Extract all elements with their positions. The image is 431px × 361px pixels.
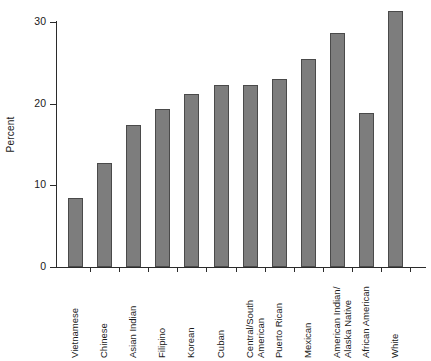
- bar: [68, 198, 83, 267]
- x-axis-label: Central/SouthAmerican: [244, 272, 262, 361]
- x-axis-label-line: White: [389, 334, 400, 358]
- bar: [272, 79, 287, 267]
- x-axis-label-line: Vietnamese: [69, 308, 80, 358]
- x-axis-label-line: African American: [360, 286, 371, 358]
- bar: [359, 113, 374, 267]
- bar: [330, 33, 345, 267]
- x-axis-label-line: Alaska Native: [342, 300, 353, 358]
- x-axis-label-line: Filipino: [156, 328, 167, 358]
- x-axis-label-line: Central/South: [244, 300, 255, 358]
- x-axis-label: Filipino: [156, 272, 174, 361]
- x-axis-label-line: Chinese: [98, 323, 109, 358]
- y-axis-tick-label: 10: [34, 178, 46, 191]
- x-axis-label: White: [389, 272, 407, 361]
- y-axis-tick: 30: [50, 22, 56, 23]
- x-axis-label-line: Cuban: [215, 330, 226, 358]
- x-axis-label: American Indian/Alaska Native: [331, 272, 349, 361]
- y-axis-tick: 0: [50, 267, 56, 268]
- x-axis-label: African American: [360, 272, 378, 361]
- x-axis-line: [56, 267, 426, 268]
- bar: [126, 125, 141, 267]
- x-axis-label: Mexican: [302, 272, 320, 361]
- x-axis-label: Cuban: [215, 272, 233, 361]
- y-axis-title-label: Percent: [6, 116, 17, 152]
- bar-chart: Percent 0102030 VietnameseChineseAsian I…: [0, 0, 431, 361]
- bar: [301, 59, 316, 267]
- y-axis-tick-label: 30: [34, 15, 46, 28]
- bar: [214, 85, 229, 267]
- x-axis-label-line: Korean: [185, 327, 196, 358]
- x-axis-label: Puerto Rican: [273, 272, 291, 361]
- plot-area: 0102030: [56, 6, 426, 268]
- bar: [184, 94, 199, 267]
- bar: [97, 163, 112, 267]
- bar: [155, 109, 170, 267]
- y-axis-tick: 20: [50, 104, 56, 105]
- x-axis-label: Korean: [185, 272, 203, 361]
- y-axis-tick: 10: [50, 185, 56, 186]
- x-axis-label-line: American: [255, 318, 266, 358]
- x-axis-label-line: American Indian/: [331, 287, 342, 358]
- y-axis-line: [56, 21, 57, 268]
- x-axis-labels: VietnameseChineseAsian IndianFilipinoKor…: [56, 272, 426, 361]
- y-axis-tick-label: 20: [34, 97, 46, 110]
- bar: [243, 85, 258, 267]
- x-axis-label: Vietnamese: [69, 272, 87, 361]
- x-axis-label: Chinese: [98, 272, 116, 361]
- x-axis-label-line: Mexican: [302, 323, 313, 358]
- bar: [388, 11, 403, 267]
- y-axis-tick-label: 0: [40, 260, 46, 273]
- y-axis-title: Percent: [0, 0, 22, 268]
- x-axis-label-line: Asian Indian: [127, 306, 138, 358]
- x-axis-label-line: Puerto Rican: [273, 303, 284, 358]
- x-axis-label: Asian Indian: [127, 272, 145, 361]
